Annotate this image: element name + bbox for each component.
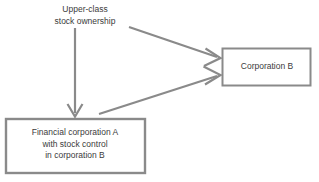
node-text-line: Financial corporation A [8, 127, 142, 139]
diagram-canvas: Upper-class stock ownership Corporation … [0, 0, 319, 182]
node-label-corporation-b: Corporation B [224, 61, 310, 73]
node-text-line: Corporation B [224, 61, 310, 73]
node-label-upper-class-stock-ownership: Upper-class stock ownership [28, 4, 142, 27]
arrow-upper-class-to-financial-corporation-a [68, 28, 83, 117]
node-text-line: with stock control [8, 139, 142, 151]
node-text-line: Upper-class [28, 4, 142, 16]
arrow-upper-class-to-corporation-b [129, 27, 221, 66]
node-text-line: in corporation B [8, 150, 142, 162]
node-label-financial-corporation-a: Financial corporation A with stock contr… [8, 127, 142, 162]
node-text-line: stock ownership [28, 16, 142, 28]
arrow-financial-corporation-a-to-corporation-b [99, 67, 221, 115]
